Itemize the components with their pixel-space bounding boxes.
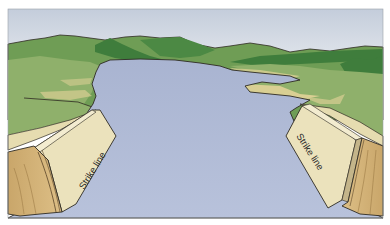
- strike-line-illustration: Strike line Strike line: [0, 0, 390, 225]
